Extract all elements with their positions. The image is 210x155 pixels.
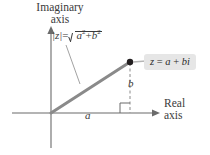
real-axis-label: Real axis <box>164 97 208 121</box>
callout-equals: = <box>154 56 165 67</box>
real-axis-label-line2: axis <box>164 109 208 121</box>
imaginary-axis-label-line2: axis <box>24 13 96 25</box>
modulus-vector <box>51 62 130 113</box>
radicand-b-exponent: 2 <box>97 28 101 36</box>
imaginary-axis-line <box>47 26 54 148</box>
formula-leader-line <box>66 45 80 84</box>
modulus-formula: |z|=a2+b2 <box>52 29 101 42</box>
point-z-marker <box>127 59 133 65</box>
imaginary-axis-label: Imaginary axis <box>24 1 96 25</box>
complex-plane-figure: Imaginary axis Real axis |z|=a2+b2 a b z… <box>0 0 210 155</box>
square-root-symbol: a2+b2 <box>69 29 101 42</box>
callout-plus: + <box>171 56 182 67</box>
callout-bi: bi <box>182 56 190 67</box>
real-axis-label-line1: Real <box>164 97 185 109</box>
imaginary-component-label: b <box>128 78 134 90</box>
modulus-lhs: |z| <box>52 29 62 41</box>
point-z-callout: z = a + bi <box>144 54 196 70</box>
imaginary-axis-label-line1: Imaginary <box>36 1 83 13</box>
real-component-label: a <box>85 110 91 122</box>
right-angle-marker <box>120 103 130 113</box>
